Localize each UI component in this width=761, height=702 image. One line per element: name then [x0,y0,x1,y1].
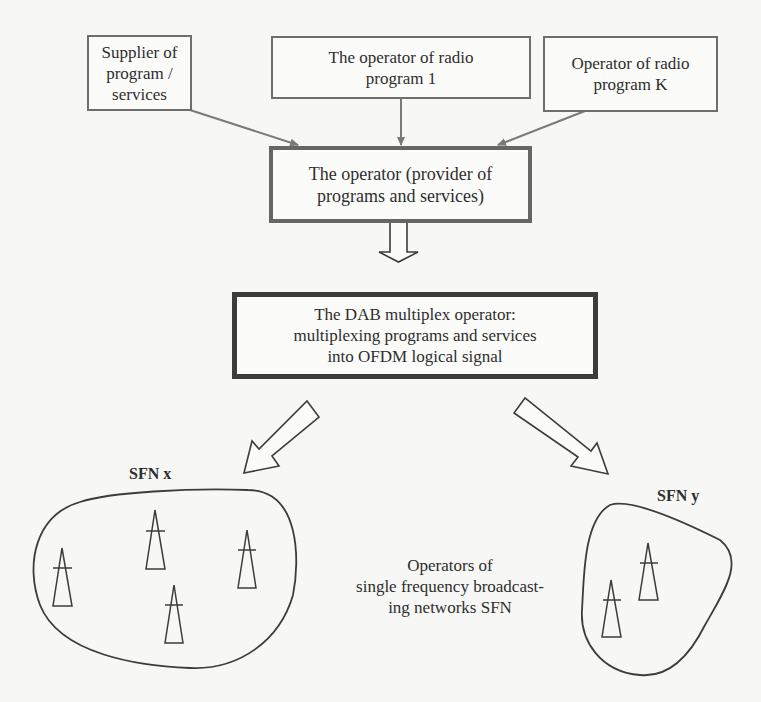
supplier-label: Supplier of program / services [89,42,190,105]
hollow-arrow-down [379,222,418,262]
transmitter-icon [602,580,621,637]
hollow-arrow-to-sfn-x [244,401,319,473]
radio-operator-1-box: The operator of radio program 1 [271,36,531,99]
provider-label: The operator (provider of programs and s… [309,163,492,207]
sfn-y-label: SFN y [657,485,699,506]
multiplex-box: The DAB multiplex operator: multiplexing… [232,292,598,379]
sfn-x-label: SFN x [129,463,171,484]
radio-operator-k-box: Operator of radio program K [543,36,718,112]
transmitter-icon [238,530,256,588]
transmitter-icon [639,543,658,600]
sfn-operators-caption: Operators of single frequency broadcast-… [332,555,568,618]
connector-radioK-to-provider [498,111,585,145]
hollow-arrow-to-sfn-y [514,398,608,474]
transmitter-icon [146,510,165,569]
supplier-box: Supplier of program / services [87,35,192,111]
transmitter-icon [165,585,183,643]
connector-supplier-to-provider [190,110,298,145]
radio-operator-k-label: Operator of radio program K [571,53,689,95]
transmitter-icon [53,548,72,606]
multiplex-label: The DAB multiplex operator: multiplexing… [293,304,536,367]
radio-operator-1-label: The operator of radio program 1 [329,47,474,89]
provider-box: The operator (provider of programs and s… [269,146,532,223]
